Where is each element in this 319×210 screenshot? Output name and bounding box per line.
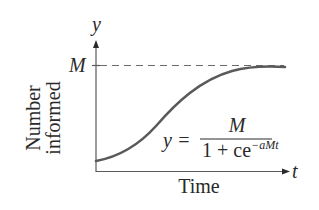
y-axis-label-line2: informed <box>42 81 64 154</box>
formula-denominator-base: 1 + ce <box>202 139 251 161</box>
y-axis-symbol: y <box>90 13 101 36</box>
asymptote-label: M <box>68 54 87 76</box>
formula: y = M 1 + ce−aMt <box>161 114 279 161</box>
logistic-chart: y t M Number informed Time y = M 1 + ce−… <box>0 0 319 210</box>
y-axis-label: Number informed <box>22 81 64 154</box>
x-axis-label: Time <box>178 175 220 197</box>
formula-lhs: y = <box>161 129 190 152</box>
y-axis-label-line1: Number <box>22 85 44 151</box>
x-axis-symbol: t <box>292 160 298 182</box>
formula-numerator: M <box>228 114 247 136</box>
formula-denominator: 1 + ce−aMt <box>202 138 279 161</box>
formula-denominator-exponent: −aMt <box>251 138 279 152</box>
